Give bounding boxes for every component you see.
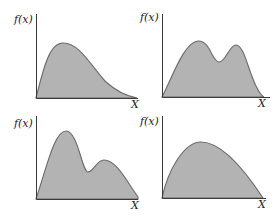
panel-top-left: f(x) X xyxy=(13,13,140,111)
panel-top-right: f(x) X xyxy=(139,11,270,110)
density-curve-area xyxy=(162,41,264,97)
y-axis-label: f(x) xyxy=(139,115,159,128)
x-axis-label: X xyxy=(130,199,140,212)
y-axis-label: f(x) xyxy=(13,13,33,26)
x-axis-label: X xyxy=(257,97,267,110)
x-axis-label: X xyxy=(257,198,267,211)
y-axis-label: f(x) xyxy=(13,117,33,130)
probability-density-diagram: f(x) X f(x) X f(x) X f(x) X xyxy=(0,0,280,222)
density-curve-area xyxy=(162,142,263,198)
density-curve-area xyxy=(36,131,138,199)
x-axis-label: X xyxy=(130,98,140,111)
density-curve-area xyxy=(36,43,137,98)
panel-bottom-left: f(x) X xyxy=(13,116,140,212)
y-axis-label: f(x) xyxy=(139,11,159,24)
panel-bottom-right: f(x) X xyxy=(139,115,267,211)
